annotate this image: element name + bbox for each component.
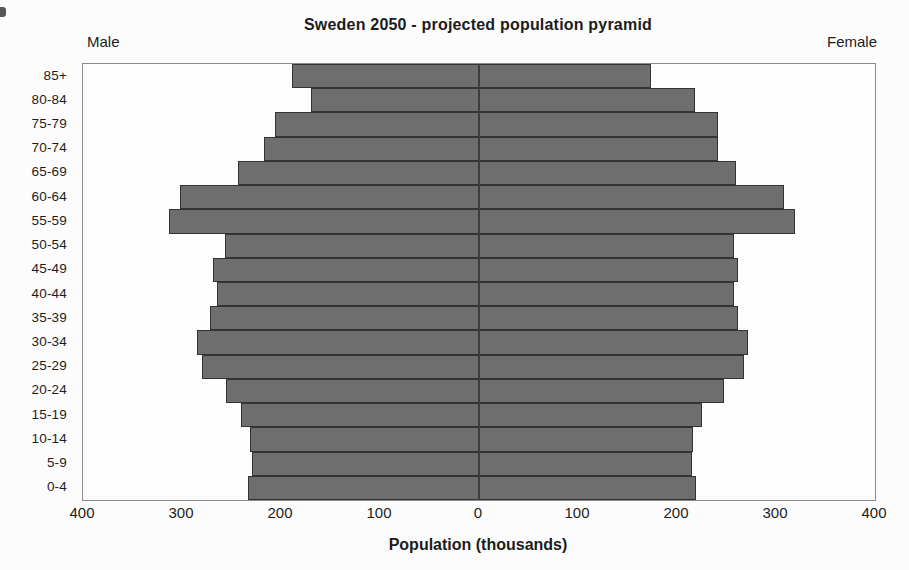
male-bar (202, 355, 479, 379)
male-bar (311, 88, 479, 112)
x-tick-label: 200 (663, 504, 688, 521)
x-tick-label: 300 (762, 504, 787, 521)
male-bar (252, 452, 479, 476)
age-tick-label: 70-74 (0, 136, 74, 160)
male-bar (210, 306, 479, 330)
female-bar (479, 64, 651, 88)
female-bar (479, 209, 795, 233)
age-tick-label: 50-54 (0, 233, 74, 257)
age-tick-label: 30-34 (0, 329, 74, 353)
zero-axis-line (478, 64, 480, 500)
male-bar (250, 427, 479, 451)
male-bar (180, 185, 479, 209)
female-bar (479, 355, 744, 379)
female-bar (479, 452, 692, 476)
male-bar (275, 112, 479, 136)
age-tick-label: 0-4 (0, 475, 74, 499)
male-bar (169, 209, 479, 233)
age-tick-label: 5-9 (0, 451, 74, 475)
female-bar (479, 137, 718, 161)
x-tick-label: 300 (168, 504, 193, 521)
x-axis-title: Population (thousands) (82, 536, 874, 554)
female-side-label: Female (815, 33, 877, 50)
age-tick-label: 80-84 (0, 87, 74, 111)
female-bar (479, 306, 738, 330)
age-tick-label: 20-24 (0, 378, 74, 402)
age-tick-label: 65-69 (0, 160, 74, 184)
female-bar (479, 403, 702, 427)
female-bar (479, 282, 734, 306)
age-tick-label: 15-19 (0, 402, 74, 426)
age-tick-label: 25-29 (0, 354, 74, 378)
age-tick-label: 75-79 (0, 111, 74, 135)
scan-artifact (0, 7, 6, 17)
age-tick-label: 45-49 (0, 257, 74, 281)
plot-area (82, 63, 876, 501)
male-bar (217, 282, 479, 306)
female-bar (479, 88, 695, 112)
male-bar (213, 258, 479, 282)
female-bar (479, 161, 736, 185)
male-bar (292, 64, 479, 88)
male-bar (241, 403, 479, 427)
female-bar (479, 234, 734, 258)
male-bar (225, 234, 479, 258)
age-tick-label: 55-59 (0, 208, 74, 232)
x-tick-label: 0 (474, 504, 482, 521)
age-tick-label: 10-14 (0, 426, 74, 450)
male-bar (248, 476, 479, 500)
male-bar (226, 379, 479, 403)
age-axis: 85+80-8475-7970-7465-6960-6455-5950-5445… (0, 63, 74, 499)
female-bar (479, 112, 718, 136)
x-tick-label: 200 (267, 504, 292, 521)
x-tick-label: 100 (564, 504, 589, 521)
age-tick-label: 40-44 (0, 281, 74, 305)
scanned-chart-page: Sweden 2050 - projected population pyram… (0, 0, 909, 570)
female-bar (479, 379, 724, 403)
female-bar (479, 185, 784, 209)
x-tick-label: 400 (69, 504, 94, 521)
male-bar (264, 137, 479, 161)
female-bar (479, 476, 696, 500)
age-tick-label: 60-64 (0, 184, 74, 208)
male-bar (238, 161, 479, 185)
age-tick-label: 35-39 (0, 305, 74, 329)
x-tick-label: 400 (861, 504, 886, 521)
female-bar (479, 258, 738, 282)
x-tick-label: 100 (366, 504, 391, 521)
male-side-label: Male (87, 33, 120, 50)
female-bar (479, 330, 748, 354)
male-bar (197, 330, 479, 354)
age-tick-label: 85+ (0, 63, 74, 87)
chart-title: Sweden 2050 - projected population pyram… (82, 16, 874, 34)
female-bar (479, 427, 693, 451)
x-axis-ticks: 4003002001000100200300400 (82, 504, 874, 522)
